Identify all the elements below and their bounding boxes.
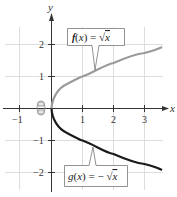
f-curve (52, 47, 163, 109)
function-graph: x y −1 1 2 3 2 1 −1 −2 f f(x) = √x g(x) … (0, 0, 177, 197)
y-tick-label: −1 (33, 135, 44, 146)
x-tick-label: 3 (142, 114, 147, 125)
x-tick-label: 1 (80, 114, 85, 125)
g-callout-label: g(x) = − √x (68, 170, 117, 183)
y-tick-label: 1 (39, 71, 44, 82)
x-axis-arrow-icon (162, 106, 169, 111)
x-axis-label: x (169, 102, 175, 114)
f-callout-label: f(x) = √x (72, 31, 110, 44)
y-tick-label: 2 (39, 39, 44, 50)
y-axis-arrow-icon (49, 13, 54, 21)
x-tick-label: −1 (12, 114, 23, 125)
y-axis-label: y (47, 1, 53, 13)
y-tick-label: −2 (33, 167, 44, 178)
x-tick-label: 2 (111, 114, 116, 125)
